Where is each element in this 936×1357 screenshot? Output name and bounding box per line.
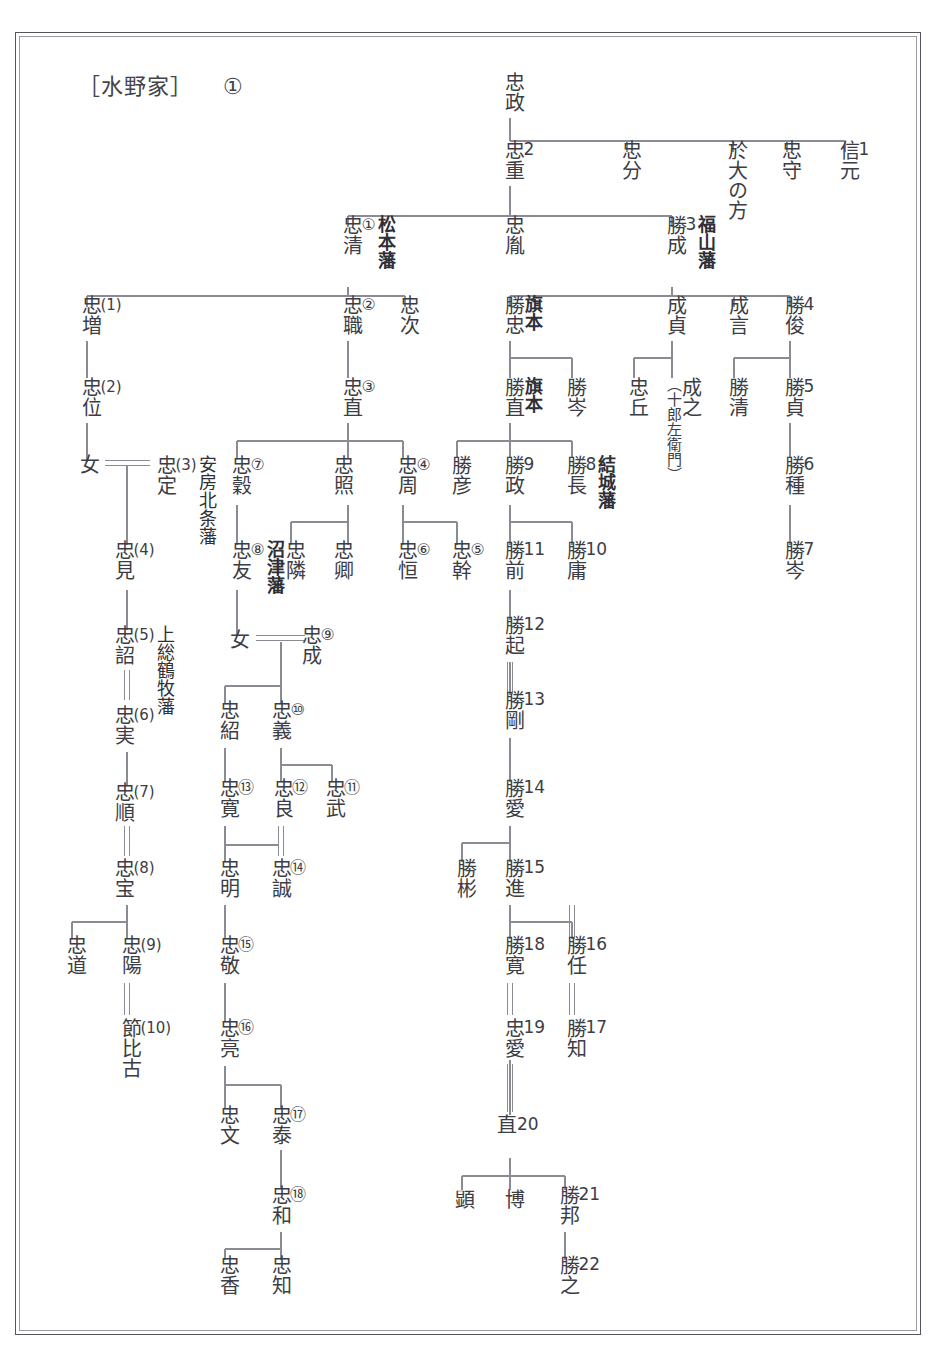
person-node: 忠重2 <box>503 140 534 180</box>
person-node: 忠穀⑦ <box>230 455 265 495</box>
person-node: 忠義⑩ <box>270 700 305 740</box>
succession-number: ⑰ <box>290 1107 306 1123</box>
succession-number: ④ <box>416 457 430 473</box>
succession-number: (1) <box>100 298 121 313</box>
person-node: 勝寛18 <box>503 935 545 975</box>
person-name: 勝忠 <box>503 295 523 335</box>
person-node: 忠位(2) <box>80 377 122 417</box>
succession-number: 6 <box>803 456 814 473</box>
person-name: 勝岑 <box>783 540 803 580</box>
person-name: 勝俊 <box>783 295 803 335</box>
succession-number: (9) <box>140 938 161 953</box>
person-name: 勝岑 <box>565 377 585 417</box>
person-node: 勝愛14 <box>503 778 545 818</box>
succession-number: (6) <box>133 708 154 723</box>
person-node: 勝彬 <box>455 858 475 898</box>
person-name: 忠順 <box>113 782 133 822</box>
succession-number: (10) <box>140 1021 171 1036</box>
person-node: 信元1 <box>838 140 869 180</box>
person-node: 忠隣 <box>284 540 304 580</box>
person-node: 忠明 <box>218 858 238 898</box>
person-node: 忠順(7) <box>113 782 155 822</box>
succession-number: 21 <box>578 1186 600 1203</box>
person-node: 勝庸10 <box>565 540 607 580</box>
person-name: 忠和 <box>270 1185 290 1225</box>
person-node: 顕 <box>455 1190 475 1210</box>
person-node: 忠照 <box>332 455 352 495</box>
person-node: 勝起12 <box>503 615 545 655</box>
person-node: 忠清①松本藩 <box>341 215 394 269</box>
succession-number: (5) <box>133 628 154 643</box>
person-node: 勝政9 <box>503 455 534 495</box>
succession-number: ⑤ <box>470 542 484 558</box>
person-name: 忠隣 <box>284 540 304 580</box>
succession-number: (2) <box>100 380 121 395</box>
person-name: 忠次 <box>398 295 418 335</box>
succession-number: 15 <box>523 859 545 876</box>
person-node: 勝清 <box>727 377 747 417</box>
person-name: 勝貞 <box>783 377 803 417</box>
person-name: 節比古 <box>120 1018 140 1078</box>
person-node: 勝知17 <box>565 1018 607 1058</box>
person-node: 忠友⑧沼津藩 <box>230 540 283 594</box>
person-node: 忠政 <box>503 72 523 112</box>
domain-label: 結城藩 <box>596 455 614 509</box>
page-title: ［水野家］ ① <box>78 68 244 100</box>
succession-number: 20 <box>517 1116 539 1133</box>
person-node: 忠誠⑭ <box>270 858 306 898</box>
person-node: 忠職② <box>341 295 376 335</box>
succession-number: ⑬ <box>238 780 254 796</box>
person-node: 忠見(4) <box>113 540 155 580</box>
person-name: 忠友 <box>230 540 250 580</box>
person-name: 忠明 <box>218 858 238 898</box>
person-name: 女 <box>80 455 100 475</box>
succession-number: ⑨ <box>320 627 334 643</box>
person-name: 忠陽 <box>120 935 140 975</box>
succession-number: 12 <box>523 616 545 633</box>
person-name: 勝之 <box>558 1255 578 1295</box>
person-node: 直20 <box>497 1115 539 1135</box>
domain-label: 旗本 <box>523 377 541 413</box>
person-name: 忠武 <box>324 778 344 818</box>
person-node: 忠寛⑬ <box>218 778 254 818</box>
person-node: 女 <box>230 630 250 650</box>
succession-number: 14 <box>523 779 545 796</box>
person-name: 忠幹 <box>450 540 470 580</box>
person-name: 成言 <box>727 295 747 335</box>
person-node: 勝岑7 <box>783 540 814 580</box>
person-name: 勝剛 <box>503 690 523 730</box>
person-name: 直 <box>497 1115 517 1135</box>
domain-label: 旗本 <box>523 295 541 331</box>
person-node: 節比古(10) <box>120 1018 171 1078</box>
person-node: 忠丘 <box>627 377 647 417</box>
person-node: 勝前11 <box>503 540 545 580</box>
person-name: 忠誠 <box>270 858 290 898</box>
person-name: 勝愛 <box>503 778 523 818</box>
person-name: 勝進 <box>503 858 523 898</box>
person-node: （十郎左衛門）成之 <box>665 377 700 482</box>
person-node: 勝任16 <box>565 935 607 975</box>
person-node: 勝岑 <box>565 377 585 417</box>
succession-number: ③ <box>361 379 375 395</box>
person-node: 忠香 <box>218 1255 238 1295</box>
succession-number: 18 <box>523 936 545 953</box>
person-node: 忠卿 <box>332 540 352 580</box>
person-name: 忠紹 <box>218 700 238 740</box>
succession-number: ⑮ <box>238 937 254 953</box>
genealogy-page: ［水野家］ ① 忠政忠重2忠分於大の方忠守信元1忠清①松本藩忠胤勝成3福山藩忠増… <box>0 0 936 1357</box>
person-name: 忠宝 <box>113 858 133 898</box>
person-node: 成言 <box>727 295 747 335</box>
person-name: 信元 <box>838 140 858 180</box>
person-name: 忠卿 <box>332 540 352 580</box>
person-name: 勝長 <box>565 455 585 495</box>
person-name: 忠守 <box>780 140 800 180</box>
person-node: 勝俊4 <box>783 295 814 335</box>
person-name: 勝任 <box>565 935 585 975</box>
person-name: 忠穀 <box>230 455 250 495</box>
person-node: 忠良⑫ <box>272 778 308 818</box>
succession-number: 16 <box>585 936 607 953</box>
succession-number: 9 <box>523 456 534 473</box>
succession-number: (8) <box>133 861 154 876</box>
person-name: 勝直 <box>503 377 523 417</box>
succession-number: (3) <box>175 458 196 473</box>
